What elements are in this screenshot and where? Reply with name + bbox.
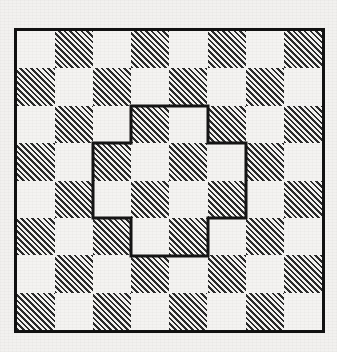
figure-canvas — [0, 0, 337, 352]
checkerboard — [17, 31, 322, 330]
outlined-plus-region[interactable] — [93, 106, 246, 256]
region-outline-overlay — [17, 31, 337, 350]
